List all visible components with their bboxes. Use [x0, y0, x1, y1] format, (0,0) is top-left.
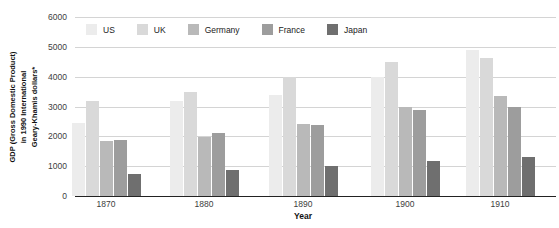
legend-item-uk: UK	[137, 24, 166, 35]
plot-area	[75, 17, 556, 197]
bar-france-1880	[212, 133, 225, 196]
legend-item-france: France	[262, 24, 305, 35]
legend-item-japan: Japan	[327, 24, 367, 35]
x-tick-label-1880: 1880	[182, 199, 226, 209]
bar-group-1880	[170, 17, 239, 196]
y-tick-label-0: 0	[27, 191, 67, 201]
y-tick-labels: 0100020003000400050006000	[0, 0, 70, 228]
gdp-bar-chart: GDP (Gross Domestic Product) in 1990 Int…	[0, 0, 559, 228]
x-tick-label-1870: 1870	[84, 199, 128, 209]
legend-label-france: France	[279, 25, 305, 35]
y-tick-label-6000: 6000	[27, 12, 67, 22]
bar-japan-1910	[522, 157, 535, 196]
x-tick-label-1910: 1910	[478, 199, 522, 209]
bar-group-1900	[371, 17, 440, 196]
bar-germany-1890	[297, 124, 310, 196]
bar-japan-1890	[325, 166, 338, 196]
legend-item-germany: Germany	[188, 24, 240, 35]
bar-germany-1900	[399, 107, 412, 196]
legend-label-germany: Germany	[205, 25, 240, 35]
legend: USUKGermanyFranceJapan	[86, 24, 367, 35]
bar-france-1870	[114, 140, 127, 196]
bar-group-1890	[269, 17, 338, 196]
bar-us-1880	[170, 101, 183, 196]
bar-germany-1910	[494, 96, 507, 196]
y-tick-label-4000: 4000	[27, 72, 67, 82]
legend-label-japan: Japan	[344, 25, 367, 35]
bar-group-1910	[466, 17, 535, 196]
y-tick-label-2000: 2000	[27, 131, 67, 141]
bar-japan-1870	[128, 174, 141, 196]
bar-japan-1880	[226, 170, 239, 196]
bar-france-1900	[413, 110, 426, 196]
legend-swatch-france	[262, 24, 273, 35]
legend-swatch-us	[86, 24, 97, 35]
legend-swatch-germany	[188, 24, 199, 35]
bar-us-1910	[466, 50, 479, 196]
bar-group-1870	[72, 17, 141, 196]
x-tick-label-1890: 1890	[281, 199, 325, 209]
legend-label-us: US	[103, 25, 115, 35]
bar-uk-1870	[86, 101, 99, 196]
legend-item-us: US	[86, 24, 115, 35]
bar-germany-1880	[198, 137, 211, 196]
x-tick-label-1900: 1900	[383, 199, 427, 209]
bar-uk-1880	[184, 92, 197, 196]
bar-japan-1900	[427, 161, 440, 196]
bar-us-1890	[269, 95, 282, 196]
bar-france-1910	[508, 107, 521, 196]
legend-swatch-uk	[137, 24, 148, 35]
bar-us-1900	[371, 77, 384, 196]
y-tick-label-1000: 1000	[27, 161, 67, 171]
bar-france-1890	[311, 125, 324, 196]
legend-label-uk: UK	[154, 25, 166, 35]
legend-swatch-japan	[327, 24, 338, 35]
bar-us-1870	[72, 123, 85, 196]
y-tick-label-3000: 3000	[27, 102, 67, 112]
x-axis-title: Year	[278, 211, 328, 221]
bar-germany-1870	[100, 141, 113, 196]
bar-uk-1910	[480, 58, 493, 196]
y-tick-label-5000: 5000	[27, 42, 67, 52]
bar-uk-1900	[385, 62, 398, 196]
bar-uk-1890	[283, 77, 296, 196]
